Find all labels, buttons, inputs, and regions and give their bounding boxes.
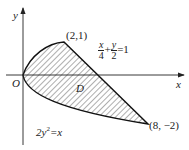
origin-label: O	[12, 78, 20, 89]
point-label-2-1: (2,1)	[66, 30, 87, 41]
y-axis-label: y	[13, 10, 18, 21]
line-equation: x4+y2=1	[98, 40, 129, 61]
x-axis-label: x	[176, 79, 181, 90]
parabola-equation: 2y2=x	[36, 126, 62, 138]
point-label-8-neg2: (8, −2)	[149, 120, 179, 131]
region-label: D	[76, 83, 84, 94]
shaded-region-d	[23, 42, 148, 124]
